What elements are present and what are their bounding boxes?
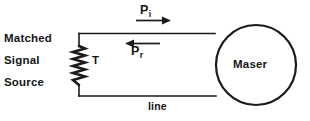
incident-power-arrow xyxy=(136,17,171,25)
reflected-power-subscript: r xyxy=(140,50,143,60)
incident-power-subscript: i xyxy=(149,9,151,19)
coil-label: T xyxy=(92,55,99,67)
source-label-line-2: Signal xyxy=(4,55,40,67)
reflected-power-symbol: P xyxy=(131,44,139,58)
line-label: line xyxy=(148,101,167,112)
reflected-power-label: Pr xyxy=(131,45,143,58)
maser-transmission-line-diagram: Matched Signal Source T Maser line Pi Pr xyxy=(0,0,310,121)
source-label-line-1: Matched xyxy=(4,33,52,45)
coil-termination-icon xyxy=(73,46,85,85)
source-label-line-3: Source xyxy=(4,77,44,89)
incident-power-label: Pi xyxy=(140,4,151,17)
incident-power-symbol: P xyxy=(140,3,148,17)
maser-label: Maser xyxy=(233,59,267,71)
